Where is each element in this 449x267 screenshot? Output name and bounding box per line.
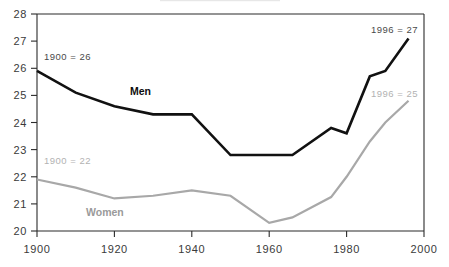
- y-tick-label: 28: [14, 8, 27, 20]
- y-tick-label: 26: [14, 62, 27, 74]
- x-tick-label: 2000: [411, 243, 438, 255]
- series-label-women: Women: [86, 206, 124, 218]
- x-tick-labels: 1900 1920 1940 1960 1980 2000: [24, 243, 438, 255]
- y-tick-label: 25: [14, 89, 27, 101]
- y-tick-label: 27: [14, 35, 27, 47]
- y-tick-label: 21: [14, 198, 27, 210]
- annotation-women-end: 1996 = 25: [371, 88, 418, 99]
- x-tick-label: 1960: [256, 243, 283, 255]
- y-tick-label: 20: [14, 225, 27, 237]
- y-tick-labels: 28 27 26 25 24 23 22 21 20: [14, 8, 27, 237]
- series-line-men: [37, 38, 409, 155]
- y-tick-marks: [31, 14, 37, 231]
- annotation-women-start: 1900 = 22: [44, 155, 91, 166]
- chart-canvas: 28 27 26 25 24 23 22 21 20 1900 1920 194…: [0, 0, 449, 267]
- y-tick-label: 24: [14, 117, 27, 129]
- annotation-men-end: 1996 = 27: [371, 24, 418, 35]
- annotation-men-start: 1900 = 26: [44, 51, 91, 62]
- x-tick-marks: [37, 231, 424, 237]
- series-label-men: Men: [130, 85, 151, 97]
- y-tick-label: 22: [14, 171, 27, 183]
- x-tick-label: 1940: [178, 243, 205, 255]
- y-tick-label: 23: [14, 144, 27, 156]
- cropped-title-remnant: [160, 0, 280, 1]
- x-tick-label: 1920: [101, 243, 128, 255]
- line-chart: 28 27 26 25 24 23 22 21 20 1900 1920 194…: [0, 0, 449, 267]
- x-tick-label: 1980: [333, 243, 360, 255]
- x-tick-label: 1900: [24, 243, 51, 255]
- axis-frame: [37, 14, 424, 231]
